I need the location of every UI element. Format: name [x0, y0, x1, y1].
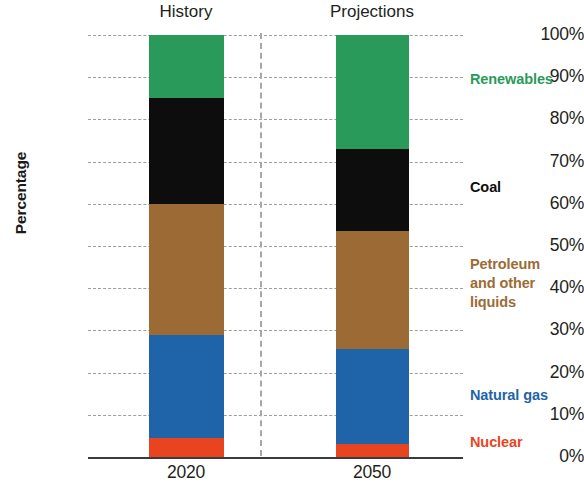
history-projection-divider	[260, 33, 262, 456]
bar-segment-renewables	[149, 35, 224, 98]
legend-label-renewables: Renewables	[470, 70, 553, 89]
x-axis-tick-label-2050: 2050	[302, 462, 442, 483]
bar-segment-natural-gas	[336, 349, 409, 444]
legend-label-petroleum-and-other-liquids: Petroleum and other liquids	[470, 255, 540, 312]
period-label-projections: Projections	[282, 2, 462, 22]
bar-segment-renewables	[336, 35, 409, 149]
y-axis-tick-label: 60%	[506, 193, 584, 214]
x-axis-tick-label-2020: 2020	[116, 462, 256, 483]
bar-2050	[336, 35, 409, 457]
bar-segment-coal	[336, 149, 409, 231]
stacked-bar-chart: Percentage 0%10%20%30%40%50%60%70%80%90%…	[0, 0, 584, 491]
y-axis-tick-label: 100%	[506, 24, 584, 45]
legend-label-natural-gas: Natural gas	[470, 386, 548, 405]
x-axis-line	[88, 457, 463, 459]
bar-segment-nuclear	[149, 438, 224, 457]
bar-segment-natural-gas	[149, 335, 224, 438]
period-label-history: History	[96, 2, 276, 22]
bar-segment-coal	[149, 98, 224, 204]
plot-area: 0%10%20%30%40%50%60%70%80%90%100%History…	[0, 0, 584, 491]
y-axis-tick-label: 30%	[506, 319, 584, 340]
bar-segment-petroleum-and-other-liquids	[149, 204, 224, 335]
y-axis-tick-label: 10%	[506, 404, 584, 425]
legend-label-coal: Coal	[470, 178, 501, 197]
bar-segment-petroleum-and-other-liquids	[336, 231, 409, 349]
bar-2020	[149, 35, 224, 457]
y-axis-tick-label: 50%	[506, 235, 584, 256]
y-axis-tick-label: 70%	[506, 151, 584, 172]
bar-segment-nuclear	[336, 444, 409, 457]
y-axis-tick-label: 80%	[506, 108, 584, 129]
legend-label-nuclear: Nuclear	[470, 433, 523, 452]
y-axis-tick-label: 20%	[506, 362, 584, 383]
